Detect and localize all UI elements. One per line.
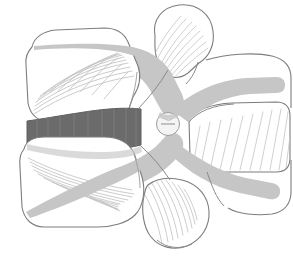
anatomical-figure [0, 0, 293, 259]
inferior-articular-process [142, 178, 209, 248]
vertebra-illustration-svg [0, 0, 293, 259]
